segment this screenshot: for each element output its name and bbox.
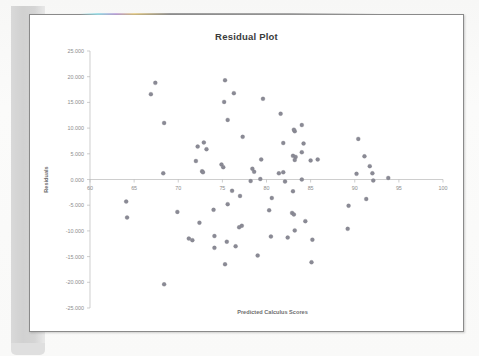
data-point xyxy=(225,240,229,244)
data-point xyxy=(292,128,296,132)
data-point xyxy=(286,236,290,240)
data-point xyxy=(281,170,285,174)
data-point xyxy=(283,180,287,184)
data-point xyxy=(310,238,314,242)
data-point xyxy=(300,123,304,127)
data-point xyxy=(291,189,295,193)
data-point xyxy=(364,197,368,201)
data-point xyxy=(292,212,296,216)
data-point xyxy=(230,189,234,193)
data-point xyxy=(270,196,274,200)
data-point xyxy=(124,200,128,204)
data-point xyxy=(252,170,256,174)
data-point xyxy=(309,158,313,162)
scanned-page-root: Residual Plot 25.00020.00015.00010.0005.… xyxy=(0,0,479,356)
data-point xyxy=(258,177,262,181)
data-point xyxy=(371,179,375,183)
y-tick-label: 25.000 xyxy=(68,48,85,54)
data-point xyxy=(300,178,304,182)
data-point xyxy=(153,81,157,85)
x-tick-label: 90 xyxy=(352,185,358,191)
y-tick-label: -5.000 xyxy=(69,202,84,208)
y-tick-label: 20.000 xyxy=(68,74,85,80)
data-point xyxy=(310,260,314,264)
data-point xyxy=(221,165,225,169)
data-point xyxy=(293,228,297,232)
data-point xyxy=(149,92,153,96)
data-point xyxy=(226,118,230,122)
x-tick-label: 75 xyxy=(219,185,225,191)
y-tick-label: -15.000 xyxy=(66,254,84,260)
data-point xyxy=(281,141,285,145)
data-point xyxy=(197,221,201,225)
x-tick-label: 60 xyxy=(87,185,93,191)
data-point xyxy=(237,225,241,229)
x-tick-label: 95 xyxy=(396,185,402,191)
data-point xyxy=(161,171,165,175)
data-point xyxy=(222,100,226,104)
data-point xyxy=(223,78,227,82)
data-point xyxy=(249,179,253,183)
data-point xyxy=(293,158,297,162)
data-point xyxy=(196,145,200,149)
data-point xyxy=(238,194,242,198)
data-point xyxy=(362,154,366,158)
paper-page: Residual Plot 25.00020.00015.00010.0005.… xyxy=(29,14,464,332)
data-point xyxy=(125,216,129,220)
data-point xyxy=(370,171,374,175)
data-point xyxy=(277,171,281,175)
data-point xyxy=(162,121,166,125)
data-point xyxy=(356,137,360,141)
data-point xyxy=(232,91,236,95)
data-point xyxy=(202,140,206,144)
data-point xyxy=(302,142,306,146)
data-point xyxy=(190,238,194,242)
data-point xyxy=(201,170,205,174)
y-tick-label: 10.000 xyxy=(68,125,85,131)
data-point xyxy=(187,237,191,241)
y-tick-label: -20.000 xyxy=(66,279,84,285)
x-tick-label: 100 xyxy=(439,185,448,191)
data-point xyxy=(347,204,351,208)
data-point xyxy=(234,244,238,248)
data-point xyxy=(204,147,208,151)
data-point xyxy=(269,235,273,239)
data-point xyxy=(303,219,307,223)
data-point xyxy=(226,202,230,206)
data-point xyxy=(368,164,372,168)
x-axis-title: Predicted Calculus Scores xyxy=(237,309,308,315)
data-point-group xyxy=(124,78,390,286)
data-point xyxy=(175,210,179,214)
y-tick-label: 15.000 xyxy=(68,99,85,105)
scatter-plot-canvas: 25.00020.00015.00010.0005.0000.000-5.000… xyxy=(30,15,463,331)
y-axis-title: Residuals xyxy=(43,166,49,192)
data-point xyxy=(194,159,198,163)
x-tick-label: 70 xyxy=(175,185,181,191)
data-point xyxy=(212,234,216,238)
y-tick-label: 0.000 xyxy=(71,177,85,183)
data-point xyxy=(256,254,260,258)
data-point xyxy=(316,157,320,161)
data-point xyxy=(386,176,390,180)
data-point xyxy=(241,135,245,139)
residual-plot-chart: Residual Plot 25.00020.00015.00010.0005.… xyxy=(30,15,463,331)
x-tick-label: 80 xyxy=(264,185,270,191)
data-point xyxy=(355,172,359,176)
x-tick-label: 85 xyxy=(308,185,314,191)
data-point xyxy=(259,157,263,161)
axes-group: 25.00020.00015.00010.0005.0000.000-5.000… xyxy=(66,48,448,311)
data-point xyxy=(300,150,304,154)
data-point xyxy=(261,97,265,101)
data-point xyxy=(223,262,227,266)
data-point xyxy=(279,112,283,116)
x-tick-label: 65 xyxy=(131,185,137,191)
data-point xyxy=(346,227,350,231)
data-point xyxy=(212,208,216,212)
data-point xyxy=(267,208,271,212)
data-point xyxy=(212,246,216,250)
y-tick-label: 5.000 xyxy=(71,151,85,157)
y-tick-label: -25.000 xyxy=(66,305,84,311)
data-point xyxy=(162,282,166,286)
y-tick-label: -10.000 xyxy=(66,228,84,234)
